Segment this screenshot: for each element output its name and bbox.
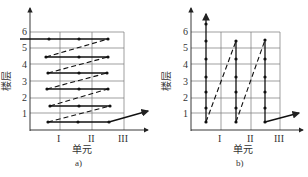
diagram-a: 1 2 3 4 5 6 I II III 楼层 单元 a): [0, 8, 148, 168]
svg-text:II: II: [247, 133, 254, 144]
y-ticks-a: 1 2 3 4 5 6: [22, 26, 27, 119]
floor-lines-a: [20, 39, 148, 122]
grid-a: [30, 32, 124, 130]
caption-b: b): [236, 158, 244, 168]
svg-text:II: II: [88, 133, 95, 144]
svg-text:5: 5: [183, 42, 188, 53]
svg-text:5: 5: [22, 42, 27, 53]
caption-a: a): [75, 158, 82, 168]
svg-text:6: 6: [183, 26, 188, 37]
svg-text:3: 3: [183, 76, 188, 87]
y-ticks-b: 1 2 3 4 5 6: [183, 26, 188, 119]
svg-text:2: 2: [183, 92, 188, 103]
x-ticks-b: I II III: [218, 133, 284, 144]
svg-text:III: III: [118, 133, 128, 144]
svg-text:I: I: [57, 133, 60, 144]
svg-text:4: 4: [183, 59, 188, 70]
x-ticks-a: I II III: [57, 133, 128, 144]
y-label-a: 楼层: [0, 71, 12, 91]
x-label-b: 单元: [233, 144, 253, 155]
unit-lines-b: [206, 14, 299, 122]
svg-text:4: 4: [22, 59, 27, 70]
diagram-b: 1 2 3 4 5 6 I II III 楼层 单元 b): [160, 8, 303, 168]
transition-lines-a: [46, 39, 110, 122]
svg-text:1: 1: [22, 108, 27, 119]
x-label-a: 单元: [72, 144, 92, 155]
svg-text:2: 2: [22, 92, 27, 103]
svg-text:III: III: [274, 133, 284, 144]
y-label-b: 楼层: [160, 71, 172, 91]
diagram-canvas: 1 2 3 4 5 6 I II III 楼层 单元 a): [0, 0, 308, 177]
svg-text:1: 1: [183, 108, 188, 119]
svg-text:I: I: [218, 133, 221, 144]
svg-text:3: 3: [22, 76, 27, 87]
svg-text:6: 6: [22, 26, 27, 37]
